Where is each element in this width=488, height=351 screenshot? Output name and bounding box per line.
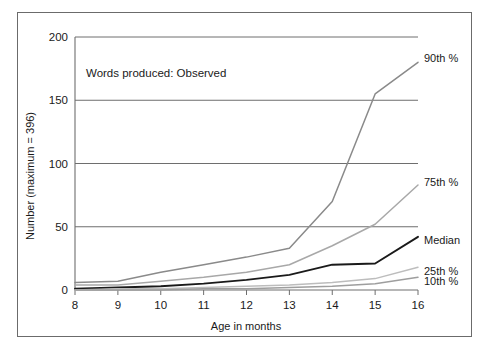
- x-axis-tick-label: 11: [198, 299, 210, 311]
- y-axis-tick-label: 0: [62, 284, 68, 296]
- series-label-median: Median: [424, 234, 460, 246]
- y-axis-tick-labels: 050100150200: [49, 31, 68, 296]
- series-line-75th: [75, 185, 418, 285]
- y-axis-tick-label: 50: [55, 221, 68, 233]
- series-label-90th: 90th %: [424, 52, 458, 64]
- x-axis-tick-label: 10: [154, 299, 167, 311]
- x-axis-tick-label: 14: [326, 299, 339, 311]
- series-line-median: [75, 237, 418, 289]
- y-axis-title: Number (maximum = 396): [24, 112, 36, 240]
- chart-annotation: Words produced: Observed: [86, 67, 226, 79]
- x-axis-tick-label: 13: [283, 299, 296, 311]
- series-line-90th: [75, 62, 418, 282]
- y-axis-tick-label: 150: [49, 94, 68, 106]
- y-axis-tick-label: 100: [49, 158, 68, 170]
- x-axis-tick-labels: 8910111213141516: [72, 299, 425, 311]
- x-axis-tick-label: 9: [115, 299, 121, 311]
- data-series-group: [75, 62, 418, 290]
- x-axis-tick-label: 12: [240, 299, 253, 311]
- series-label-10th: 10th %: [424, 275, 458, 287]
- x-axis-title: Age in months: [211, 320, 282, 332]
- figure-frame: 050100150200 8910111213141516 90th %75th…: [17, 12, 472, 337]
- x-axis-tick-label: 16: [412, 299, 425, 311]
- chart-container: 050100150200 8910111213141516 90th %75th…: [18, 13, 473, 338]
- x-axis-tick-label: 15: [369, 299, 382, 311]
- series-labels-group: 90th %75th %Median25th %10th %: [424, 52, 460, 287]
- series-label-75th: 75th %: [424, 176, 458, 188]
- y-axis-tick-label: 200: [49, 31, 68, 43]
- line-chart: 050100150200 8910111213141516 90th %75th…: [18, 13, 473, 338]
- x-axis-tick-label: 8: [72, 299, 78, 311]
